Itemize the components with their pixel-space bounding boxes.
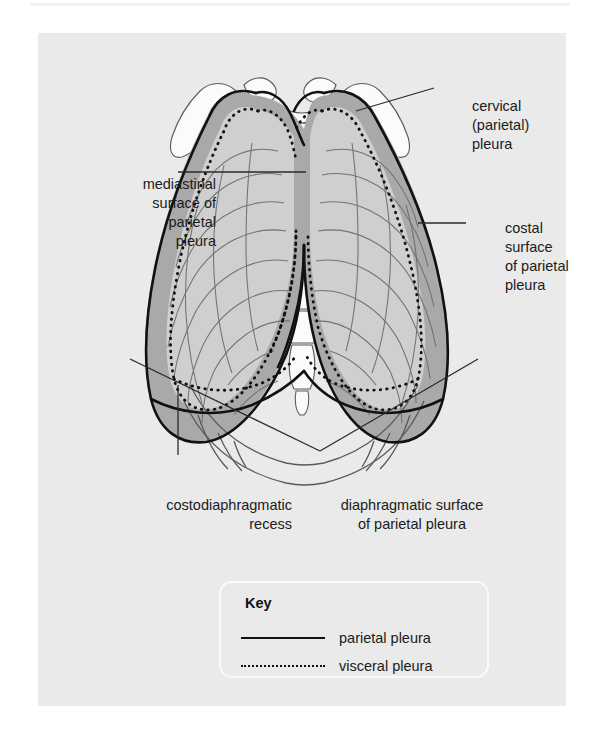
key-entry-label: visceral pleura bbox=[339, 658, 433, 674]
label-diaphragmatic-surface-of-parietal-pleura: diaphragmatic surface of parietal pleura bbox=[296, 496, 528, 534]
key-entry-visceral-pleura: visceral pleura bbox=[239, 655, 479, 677]
key-entry-label: parietal pleura bbox=[339, 630, 431, 646]
figure-panel: cervical (parietal) pleura mediastinal s… bbox=[38, 33, 566, 706]
solid-line-icon bbox=[239, 631, 327, 645]
key-title: Key bbox=[245, 595, 272, 611]
page-top-rule bbox=[30, 3, 570, 6]
key-entry-parietal-pleura: parietal pleura bbox=[239, 627, 479, 649]
label-costal-surface-of-parietal-pleura: costal surface of parietal pleura bbox=[505, 219, 603, 295]
dotted-line-icon bbox=[239, 659, 327, 673]
label-costodiaphragmatic-recess: costodiaphragmatic recess bbox=[58, 496, 292, 534]
key-legend-box: Key parietal pleura visceral pleura bbox=[219, 581, 489, 678]
label-mediastinal-surface-of-parietal-pleura: mediastinal surface of parietal pleura bbox=[66, 175, 216, 251]
label-cervical-parietal-pleura: cervical (parietal) pleura bbox=[472, 97, 603, 154]
